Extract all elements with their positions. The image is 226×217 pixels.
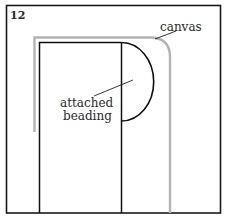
panel-outline bbox=[40, 43, 122, 214]
attached-label: attached bbox=[60, 96, 114, 110]
beading-diagram: 12 canvas attached beading bbox=[0, 0, 226, 217]
figure-number: 12 bbox=[10, 9, 25, 22]
beading-half-round bbox=[122, 43, 154, 122]
beading-leader-line bbox=[94, 80, 133, 96]
beading-label: beading bbox=[63, 109, 112, 123]
canvas-label: canvas bbox=[160, 20, 202, 34]
